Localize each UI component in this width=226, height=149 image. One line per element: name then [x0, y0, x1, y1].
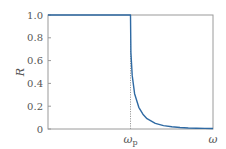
y-tick-label: 0.4 [27, 78, 43, 89]
y-tick-label: 1.0 [27, 10, 43, 21]
x-tick-label: ω [209, 133, 218, 146]
y-axis-ticks: 00.20.40.60.81.0 [27, 10, 51, 135]
y-tick-label: 0 [37, 124, 43, 135]
y-tick-label: 0.6 [27, 55, 43, 66]
y-axis-label: R [14, 68, 27, 77]
x-tick-label: ωp [123, 133, 137, 147]
y-tick-label: 0.8 [27, 32, 43, 43]
x-axis-ticks: ωpω [123, 133, 217, 147]
y-tick-label: 0.2 [27, 101, 43, 112]
reflectivity-chart: 00.20.40.60.81.0 ωpω R [0, 0, 226, 149]
